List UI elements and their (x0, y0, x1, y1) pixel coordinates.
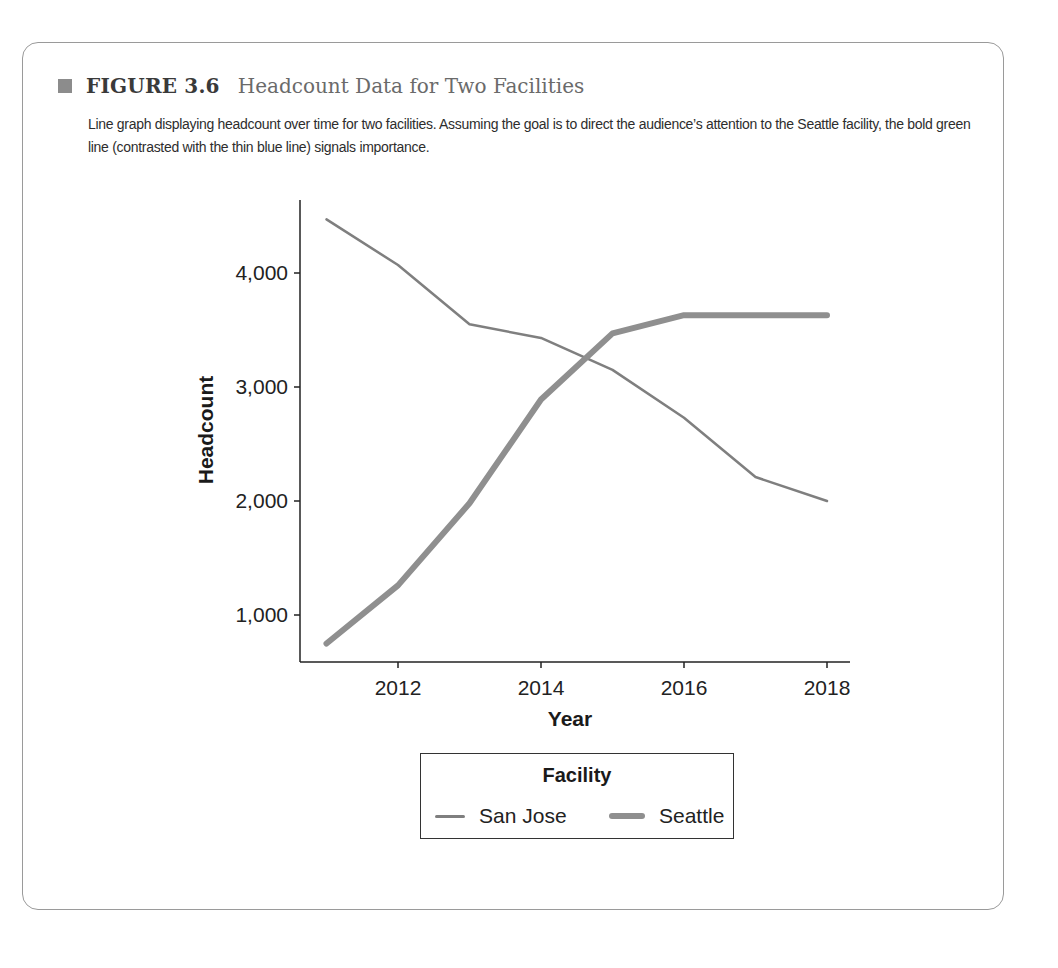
x-tick-label: 2012 (375, 676, 422, 699)
y-tick-label: 2,000 (235, 489, 288, 512)
x-axis-title: Year (548, 707, 592, 730)
x-tick-label: 2014 (518, 676, 565, 699)
x-tick-label: 2016 (661, 676, 708, 699)
y-axis-title: Headcount (194, 376, 217, 485)
legend-bold-line-icon (609, 813, 645, 819)
y-tick-label: 4,000 (235, 261, 288, 284)
legend-label-san-jose: San Jose (479, 804, 567, 828)
legend-item-seattle: Seattle (609, 804, 724, 828)
chart-lines (327, 219, 828, 643)
series-line-seattle (327, 315, 828, 643)
legend-title: Facility (421, 764, 733, 787)
x-tick-label: 2018 (804, 676, 851, 699)
y-tick-label: 1,000 (235, 603, 288, 626)
y-tick-label: 3,000 (235, 375, 288, 398)
chart-axes (300, 200, 850, 662)
chart-legend: Facility San Jose Seattle (420, 753, 734, 839)
chart-ticks: 1,0002,0003,0004,0002012201420162018 (235, 261, 850, 699)
series-line-san-jose (327, 219, 828, 501)
legend-thin-line-icon (435, 815, 465, 818)
legend-item-san-jose: San Jose (435, 804, 567, 828)
legend-label-seattle: Seattle (659, 804, 724, 828)
